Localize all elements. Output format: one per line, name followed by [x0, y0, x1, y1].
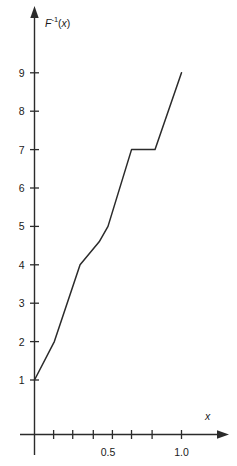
y-axis-tick-label: 2 [5, 337, 25, 348]
x-axis-tick-label: 0.5 [88, 447, 128, 458]
inverse-cdf-plot [0, 0, 237, 466]
y-axis-tick-label: 9 [5, 68, 25, 79]
y-axis-tick-label: 6 [5, 183, 25, 194]
y-axis-title: F-1(x) [45, 16, 70, 28]
x-axis-title: x [205, 411, 210, 422]
y-axis-arrow-icon [30, 6, 38, 18]
data-line-inverse-cdf [35, 73, 182, 380]
series-layer [35, 73, 182, 380]
x-axis-tick-label: 1.0 [162, 447, 202, 458]
y-axis-tick-label: 3 [5, 298, 25, 309]
y-axis-tick-label: 5 [5, 221, 25, 232]
y-axis-tick-label: 8 [5, 106, 25, 117]
y-axis-tick-label: 4 [5, 260, 25, 271]
y-axis-tick-label: 7 [5, 145, 25, 156]
x-axis-arrow-icon [217, 430, 229, 438]
y-axis-title-arg-close: ) [67, 17, 71, 29]
y-axis-tick-label: 1 [5, 375, 25, 386]
